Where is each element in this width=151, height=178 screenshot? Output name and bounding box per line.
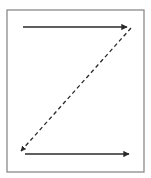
frame-border [7,10,144,172]
z-pattern-diagram [0,0,151,178]
diagonal-arrow [21,28,131,151]
